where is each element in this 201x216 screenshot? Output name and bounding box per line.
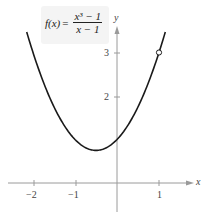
- x-axis-arrow-icon: [186, 181, 194, 186]
- function-curve: [27, 32, 166, 150]
- y-tick-label-3: 3: [104, 47, 109, 58]
- x-tick-label-neg1: −1: [68, 189, 79, 200]
- formula-lhs: f(x): [45, 17, 60, 29]
- y-axis-arrow-icon: [115, 26, 120, 34]
- formula-denominator: x − 1: [75, 23, 100, 35]
- x-axis-label: x: [196, 176, 200, 187]
- y-axis-label: y: [114, 12, 118, 23]
- formula-label: f(x) = x³ − 1 x − 1: [45, 10, 102, 35]
- x-tick-label-1: 1: [157, 189, 162, 200]
- formula-numerator: x³ − 1: [73, 10, 102, 23]
- x-tick-label-neg2: −2: [26, 189, 37, 200]
- y-tick-label-2: 2: [104, 91, 109, 102]
- formula-equals: =: [62, 17, 68, 29]
- open-circle-hole: [156, 50, 161, 55]
- formula-fraction: x³ − 1 x − 1: [73, 10, 102, 35]
